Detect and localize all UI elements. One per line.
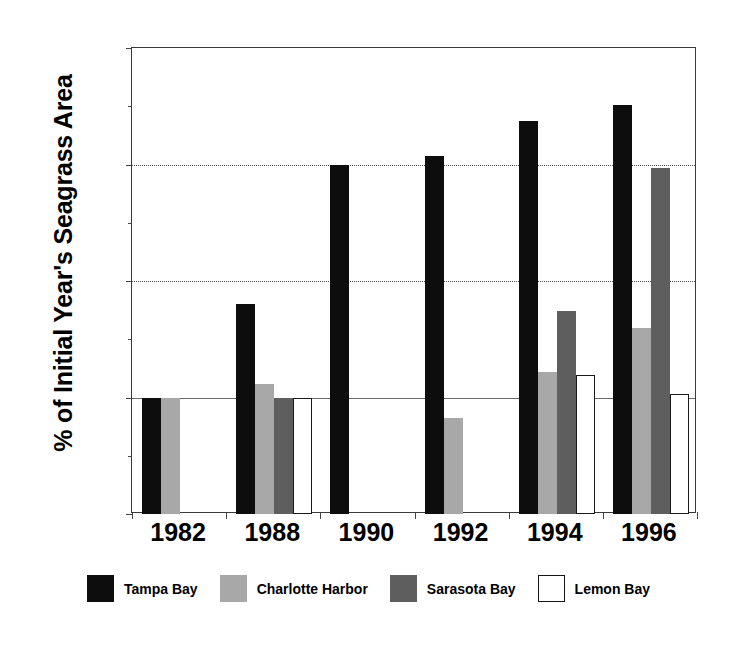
bar-charlotte-harbor-1988 [255, 384, 274, 514]
x-tick-label-1996: 1996 [589, 518, 709, 547]
bar-lemon-bay-1988 [293, 398, 312, 515]
legend-item-sarasota-bay: Sarasota Bay [390, 575, 516, 602]
legend-swatch-tampa [87, 575, 114, 602]
bar-lemon-bay-1994 [576, 375, 595, 514]
bar-tampa-bay-1992 [425, 156, 444, 514]
bar-group-1982 [132, 48, 226, 512]
bar-group-1992 [415, 48, 509, 512]
bar-tampa-bay-1990 [330, 165, 349, 515]
bar-tampa-bay-1996 [613, 105, 632, 514]
y-axis-title: % of Initial Year's Seagrass Area [49, 28, 89, 498]
seagrass-area-bar-chart: % of Initial Year's Seagrass Area Tampa … [0, 0, 737, 650]
legend-swatch-charlotte [220, 575, 247, 602]
legend-label: Tampa Bay [124, 581, 198, 597]
chart-legend: Tampa BayCharlotte HarborSarasota BayLem… [0, 575, 737, 602]
bar-sarasota-bay-1994 [557, 311, 576, 514]
legend-swatch-sarasota [390, 575, 417, 602]
bar-group-1988 [226, 48, 320, 512]
bar-group-1996 [603, 48, 697, 512]
bar-group-1994 [509, 48, 603, 512]
bar-sarasota-bay-1996 [651, 168, 670, 514]
legend-label: Lemon Bay [575, 581, 650, 597]
legend-label: Sarasota Bay [427, 581, 516, 597]
bar-tampa-bay-1994 [519, 121, 538, 514]
legend-item-charlotte-harbor: Charlotte Harbor [220, 575, 368, 602]
legend-item-lemon-bay: Lemon Bay [538, 575, 650, 602]
plot-area [131, 47, 696, 513]
bar-sarasota-bay-1988 [274, 398, 293, 515]
bar-charlotte-harbor-1996 [632, 328, 651, 514]
bar-tampa-bay-1988 [236, 304, 255, 514]
bar-group-1990 [320, 48, 414, 512]
bar-tampa-bay-1982 [142, 398, 161, 515]
bar-charlotte-harbor-1982 [161, 398, 180, 515]
legend-label: Charlotte Harbor [257, 581, 368, 597]
bar-lemon-bay-1996 [670, 394, 689, 514]
bar-charlotte-harbor-1994 [538, 372, 557, 514]
legend-item-tampa-bay: Tampa Bay [87, 575, 198, 602]
bar-charlotte-harbor-1992 [444, 418, 463, 514]
legend-swatch-lemon [538, 575, 565, 602]
